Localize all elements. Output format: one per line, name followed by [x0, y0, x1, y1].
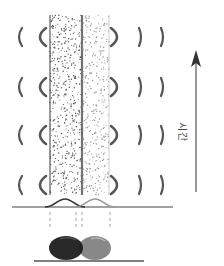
- left-wave-bracket: [19, 28, 22, 46]
- diagram-canvas: 시간: [0, 0, 224, 266]
- dark-band: [49, 14, 82, 195]
- left-wave-bracket: [40, 78, 46, 96]
- dark-particle: [49, 236, 83, 260]
- right-wave-bracket: [111, 176, 117, 194]
- right-wave-bracket: [139, 78, 141, 96]
- left-wave-bracket: [19, 78, 22, 96]
- right-wave-bracket: [139, 126, 141, 144]
- right-wave-bracket: [161, 126, 163, 144]
- time-axis-label: 시간: [176, 122, 191, 142]
- right-wave-bracket: [161, 176, 163, 194]
- right-wave-bracket: [139, 28, 141, 46]
- light-peak: [75, 199, 115, 207]
- left-wave-bracket: [19, 126, 22, 144]
- left-wave-bracket: [19, 176, 22, 194]
- right-wave-bracket: [111, 78, 117, 96]
- right-wave-bracket: [161, 78, 163, 96]
- gray-particle: [79, 236, 111, 260]
- light-band: [81, 15, 109, 196]
- right-wave-bracket: [161, 28, 163, 46]
- right-wave-bracket: [111, 126, 117, 144]
- left-wave-bracket: [40, 28, 46, 46]
- right-wave-bracket: [111, 28, 117, 46]
- left-wave-bracket: [40, 176, 46, 194]
- right-wave-bracket: [139, 176, 141, 194]
- left-wave-bracket: [40, 126, 46, 144]
